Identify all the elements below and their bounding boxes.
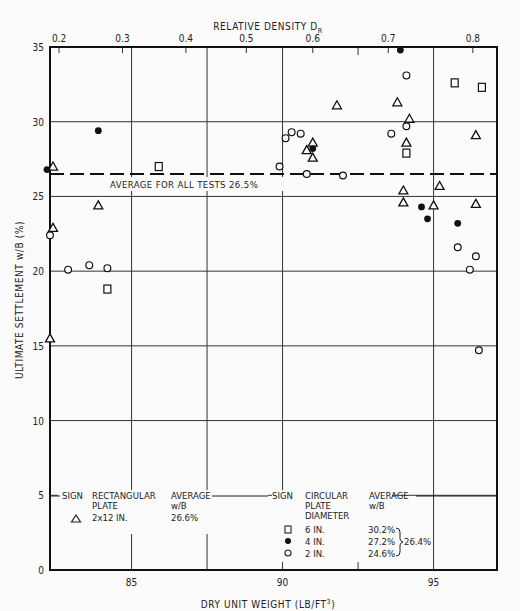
- filled-circle-marker: [454, 220, 461, 227]
- legend-rect-size: 2x12 IN.: [92, 512, 128, 523]
- y-tick-label: 0: [38, 565, 44, 576]
- open-circle-marker: [104, 265, 111, 272]
- triangle-marker: [94, 201, 103, 209]
- open-circle-marker: [303, 171, 310, 178]
- open-circle-marker: [403, 123, 410, 130]
- triangle-marker: [332, 101, 341, 109]
- triangle-marker: [399, 186, 408, 194]
- triangle-marker: [471, 131, 480, 139]
- triangle-marker: [435, 181, 444, 189]
- open-circle-marker: [297, 130, 304, 137]
- y-tick-label: 20: [33, 266, 45, 277]
- triangle-marker: [308, 153, 317, 161]
- open-circle-marker: [340, 172, 347, 179]
- open-circle-marker: [276, 163, 283, 170]
- legend-circ-avg-header-2: w/B: [369, 500, 385, 511]
- brace-icon: [396, 528, 403, 556]
- top-tick-label: 0.7: [381, 33, 395, 44]
- legend-c6-avg: 30.2%: [368, 524, 395, 535]
- open-circle-marker: [86, 262, 93, 269]
- top-tick-label: 0.5: [239, 33, 253, 44]
- filled-circle-marker: [418, 203, 425, 210]
- triangle-marker: [399, 198, 408, 206]
- square-marker: [478, 83, 485, 91]
- filled-circle-marker: [397, 47, 404, 54]
- legend-group-avg: 26.4%: [404, 536, 431, 547]
- triangle-marker: [46, 334, 55, 342]
- open-circle-marker: [454, 244, 461, 251]
- triangle-marker: [429, 201, 438, 209]
- y-axis-title: ULTIMATE SETTLEMENT w/B (%): [14, 221, 25, 379]
- square-marker: [155, 163, 162, 171]
- open-circle-marker: [282, 135, 289, 142]
- legend-c2-size: 2 IN.: [305, 548, 325, 559]
- square-marker: [451, 79, 458, 87]
- open-circle-marker: [388, 130, 395, 137]
- square-marker: [104, 285, 111, 293]
- open-circle-marker: [466, 266, 473, 273]
- x-tick-label: 90: [277, 577, 289, 588]
- x-tick-label: 95: [428, 577, 439, 588]
- y-tick-label: 25: [33, 191, 44, 202]
- filled-circle-marker: [95, 127, 102, 134]
- open-circle-marker: [403, 72, 410, 79]
- open-circle-marker: [288, 129, 295, 136]
- legend-rect-header-2: PLATE: [92, 500, 118, 511]
- legend-circ-header-3: DIAMETER: [305, 510, 349, 521]
- y-tick-label: 10: [33, 416, 45, 427]
- top-tick-label: 0.2: [52, 33, 66, 44]
- top-tick-label: 0.3: [115, 33, 129, 44]
- legend-circular: SIGN CIRCULAR PLATE DIAMETER AVERAGE w/B…: [272, 490, 497, 562]
- open-circle-marker: [475, 347, 482, 354]
- triangle-marker: [402, 138, 411, 146]
- triangle-marker: [405, 114, 414, 122]
- triangle-marker: [471, 199, 480, 207]
- average-line-label: AVERAGE FOR ALL TESTS 26.5%: [110, 179, 258, 190]
- y-tick-label: 35: [33, 42, 44, 53]
- settlement-scatter-chart: 051015202530358590950.20.30.40.50.60.70.…: [0, 0, 520, 611]
- filled-circle-icon: [285, 538, 291, 544]
- legend-rect-avg: 26.6%: [171, 512, 198, 523]
- top-tick-label: 0.8: [466, 33, 481, 44]
- open-circle-marker: [65, 266, 72, 273]
- data-points: [44, 47, 486, 354]
- filled-circle-marker: [424, 215, 431, 222]
- legend-c6-size: 6 IN.: [305, 524, 325, 535]
- legend-rectangular: SIGN RECTANGULAR PLATE AVERAGE w/B 2x12 …: [50, 490, 268, 534]
- x-tick-label: 85: [126, 577, 137, 588]
- open-circle-marker: [47, 232, 54, 239]
- y-tick-label: 5: [38, 490, 44, 501]
- legend-sign-header-circ: SIGN: [272, 490, 293, 501]
- open-circle-marker: [472, 253, 479, 260]
- filled-circle-marker: [44, 166, 51, 173]
- triangle-marker: [308, 138, 317, 146]
- x-axis-title: DRY UNIT WEIGHT (LB/FT3): [201, 598, 336, 610]
- legend-c4-size: 4 IN.: [305, 536, 325, 547]
- top-tick-label: 0.4: [179, 33, 194, 44]
- legend-sign-header: SIGN: [62, 490, 83, 501]
- square-marker: [403, 149, 410, 157]
- legend-c4-avg: 27.2%: [368, 536, 395, 547]
- legend-avg-header-2: w/B: [171, 500, 187, 511]
- legend-c2-avg: 24.6%: [368, 548, 395, 559]
- triangle-marker: [393, 98, 402, 106]
- y-tick-label: 30: [33, 117, 45, 128]
- y-tick-label: 15: [33, 341, 44, 352]
- filled-circle-marker: [309, 145, 316, 152]
